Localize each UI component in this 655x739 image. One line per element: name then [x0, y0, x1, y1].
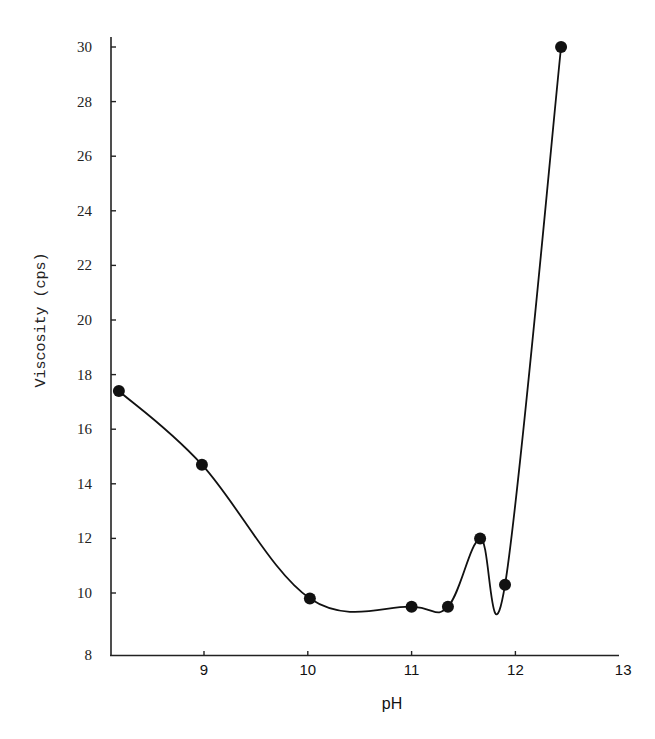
- y-tick-label: 10: [77, 585, 92, 601]
- x-axis-title: pH: [382, 695, 402, 712]
- data-point-marker: [555, 41, 567, 53]
- y-tick-label: 22: [77, 257, 92, 273]
- data-point-marker: [304, 592, 316, 604]
- y-tick-label: 24: [77, 203, 93, 219]
- axes: [110, 37, 619, 656]
- y-tick-label: 30: [77, 39, 92, 55]
- y-ticks: 81012141618202224262830: [77, 39, 116, 663]
- data-point-marker: [474, 532, 486, 544]
- x-tick-label: 12: [507, 661, 524, 678]
- series-line: [119, 47, 561, 614]
- y-tick-label: 8: [85, 647, 93, 663]
- data-series: [113, 41, 567, 614]
- chart: 81012141618202224262830 910111213 Viscos…: [0, 0, 655, 739]
- x-tick-label: 13: [615, 661, 632, 678]
- y-tick-label: 12: [77, 530, 92, 546]
- x-tick-label: 9: [200, 661, 208, 678]
- y-tick-label: 28: [77, 94, 92, 110]
- y-tick-label: 16: [77, 421, 93, 437]
- data-point-marker: [442, 601, 454, 613]
- x-tick-label: 11: [404, 661, 420, 678]
- data-point-marker: [406, 601, 418, 613]
- y-tick-label: 26: [77, 148, 93, 164]
- data-point-marker: [113, 385, 125, 397]
- y-axis-title: Viscosity (cps): [33, 252, 50, 387]
- data-point-marker: [196, 459, 208, 471]
- data-point-marker: [499, 579, 511, 591]
- series-markers: [113, 41, 567, 613]
- y-tick-label: 20: [77, 312, 92, 328]
- y-tick-label: 14: [77, 476, 93, 492]
- y-tick-label: 18: [77, 367, 92, 383]
- x-tick-label: 10: [299, 661, 316, 678]
